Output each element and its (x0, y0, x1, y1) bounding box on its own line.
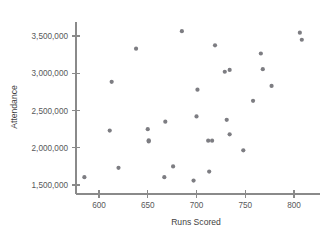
x-tick-label: 750 (238, 201, 252, 210)
data-point (261, 67, 265, 71)
data-point (213, 43, 217, 47)
data-point (116, 166, 120, 170)
data-point (228, 68, 232, 72)
data-point (194, 114, 198, 118)
data-point (300, 38, 304, 42)
data-point (241, 148, 245, 152)
y-tick-label: 3,000,000 (32, 69, 69, 78)
y-tick-label: 3,500,000 (32, 32, 69, 41)
data-point (210, 139, 214, 143)
data-point (195, 88, 199, 92)
data-point (108, 129, 112, 133)
x-tick-label: 600 (92, 201, 106, 210)
data-point (191, 178, 195, 182)
scatter-chart: 1,500,0002,000,0002,500,0003,000,0003,50… (0, 0, 332, 238)
data-point (134, 47, 138, 51)
data-point (223, 70, 227, 74)
data-point (207, 169, 211, 173)
data-point (180, 29, 184, 33)
y-tick-label: 2,000,000 (32, 144, 69, 153)
data-point (269, 84, 273, 88)
data-point (251, 99, 255, 103)
data-point (162, 175, 166, 179)
y-tick-label: 1,500,000 (32, 181, 69, 190)
data-point (228, 132, 232, 136)
data-point (259, 51, 263, 55)
data-point (298, 31, 302, 35)
data-point (147, 139, 151, 143)
data-point (110, 80, 114, 84)
x-tick-label: 800 (287, 201, 301, 210)
y-axis-title: Attendance (9, 85, 19, 129)
data-point (206, 139, 210, 143)
x-axis-title: Runs Scored (171, 217, 221, 227)
x-tick-label: 650 (141, 201, 155, 210)
data-point (82, 175, 86, 179)
data-points (82, 29, 304, 183)
plot-area: 1,500,0002,000,0002,500,0003,000,0003,50… (0, 0, 332, 238)
x-tick-label: 700 (190, 201, 204, 210)
tick-marks (72, 36, 294, 198)
data-point (146, 127, 150, 131)
data-point (225, 118, 229, 122)
data-point (163, 120, 167, 124)
axes (76, 22, 320, 194)
data-point (171, 164, 175, 168)
y-tick-label: 2,500,000 (32, 107, 69, 116)
